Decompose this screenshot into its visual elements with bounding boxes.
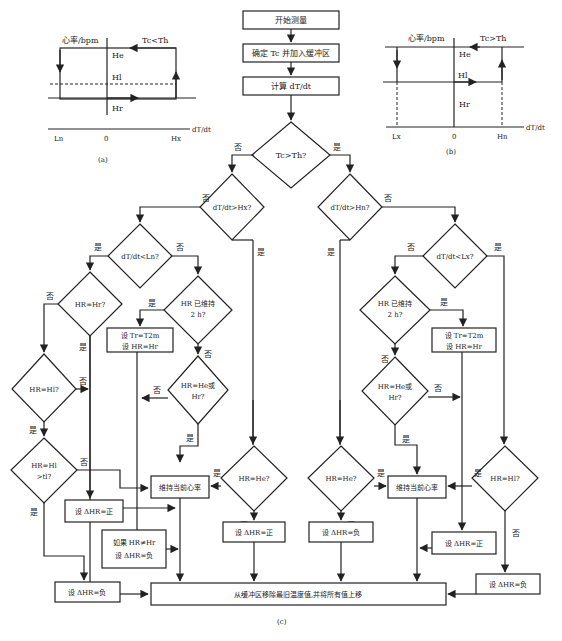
label-yes: 是 [148,299,156,308]
graph-b-ylabel: 心率/bpm [408,33,445,43]
graph-b: 心率/bpm Tc>Th He Hl Hr dT/dt Lx 0 Hn (b) [383,33,545,156]
decision-he-or-hr-line2: Hr? [191,393,204,401]
decision-hr-eq-he-right: HR=He? [325,475,356,483]
step-add-buffer: 确定 Tc 并加入缓冲区 [252,48,330,58]
set-delta-neg-center: 设 ΔHR=负 [322,528,361,537]
decision-rate-lt-lx: dT/dt<Lx? [436,253,473,261]
label-no: 否 [46,292,54,301]
label-yes: 是 [30,508,38,517]
label-yes: 是 [213,469,221,478]
set-tr-right-line1: 设 Tr=T2m [445,331,484,340]
set-delta-pos-center: 设 ΔHR=正 [235,528,274,537]
label-no: 否 [176,243,184,252]
graph-a-level-he: He [112,51,124,60]
label-no: 否 [434,384,442,393]
decision-hr-eq-hr: HR=Hr? [75,301,106,309]
label-no: 否 [381,355,389,364]
decision-hl-time-line2: >tl? [37,473,52,481]
label-no: 否 [234,143,242,152]
keep-hr-left: 维持当前心率 [159,483,201,492]
set-delta-pos-right: 设 ΔHR=正 [445,539,484,548]
label-yes: 是 [377,469,385,478]
graph-a-tick-0: 0 [104,135,108,143]
set-delta-neg-right: 设 ΔHR=负 [489,580,528,589]
start-box: 开始测量 [275,15,307,25]
graph-b-xlabel: dT/dt [526,124,545,132]
flowchart-figure: 心率/bpm Tc<Th He Hl Hr Ln 0 Hx dT/dt (a) … [0,0,562,641]
graph-b-tick-hn: Hn [497,133,508,141]
decision-hl-time-line1: HR=Hl [31,462,57,470]
graph-b-caption: (b) [446,148,456,156]
label-yes: 是 [327,248,335,257]
label-yes: 是 [79,343,87,352]
decision-held-2h-line1: HR 已维持 [181,299,216,308]
decision-rate-gt-hx: dT/dt>Hx? [213,204,252,212]
label-yes: 是 [257,248,265,257]
label-yes: 是 [474,469,482,478]
set-tr-right-line2: 设 HR=Hr [446,342,483,351]
decision-held-2h-line2: 2 h? [191,311,206,319]
graph-b-condition: Tc>Th [480,34,506,43]
graph-b-tick-0: 0 [452,133,456,141]
label-no: 否 [204,350,212,359]
decision-rate-gt-hn: dT/dt>Hn? [330,204,369,212]
label-no: 否 [80,458,88,467]
keep-hr-right: 维持当前心率 [396,483,438,492]
decision-main: Tc>Th? [276,151,307,160]
decision-he-or-hr-right-line2: Hr? [388,394,401,402]
label-no: 否 [202,194,210,203]
decision-hr-eq-he-left: HR=He? [238,475,269,483]
decision-he-or-hr-right-line1: HR=He或 [378,382,413,391]
label-no: 否 [512,529,520,538]
if-not-hr-line2: 设 ΔHR=负 [115,551,154,560]
label-no: 否 [79,377,87,386]
label-yes: 是 [29,426,37,435]
set-tr-line1: 设 Tr=T2m [121,331,160,340]
graph-b-level-hr: Hr [459,100,470,109]
label-yes: 是 [440,298,448,307]
graph-a-caption: (a) [98,156,108,164]
decision-hr-eq-hl-right: HR=Hl? [490,475,520,483]
graph-b-tick-lx: Lx [392,133,401,141]
decision-he-or-hr-line1: HR=He或 [181,381,216,390]
label-yes: 是 [333,143,341,152]
label-no: 否 [407,243,415,252]
final-shift-buffer: 从缓冲区移除最旧温度值,并将所有值上移 [234,590,362,599]
graph-b-level-hl: Hl [458,71,468,80]
graph-a-tick-ln: Ln [54,135,64,143]
decision-hr-eq-hl: HR=Hl? [29,386,59,394]
label-yes: 是 [94,243,102,252]
graph-a: 心率/bpm Tc<Th He Hl Hr Ln 0 Hx dT/dt (a) [48,35,211,164]
if-not-hr-line1: 如果 HR≠Hr [113,538,157,547]
decision-held-2h-right-line1: HR 已维持 [378,299,413,308]
label-no: 否 [384,194,392,203]
set-delta-pos-left: 设 ΔHR=正 [75,507,114,516]
label-yes: 是 [186,434,194,443]
decision-held-2h-right-line2: 2 h? [388,311,403,319]
decision-rate-lt-ln: dT/dt<Ln? [121,253,159,261]
graph-a-condition: Tc<Th [142,36,168,45]
graph-b-level-he: He [459,50,471,59]
flowchart-caption: (c) [277,618,287,626]
label-no: 否 [153,386,161,395]
set-tr-line2: 设 HR=Hr [122,342,159,351]
graph-a-level-hr: Hr [112,104,123,113]
graph-a-level-hl: Hl [112,73,122,82]
graph-a-ylabel: 心率/bpm [62,35,99,45]
step-calc-rate: 计算 dT/dt [271,81,312,91]
set-delta-neg-left: 设 ΔHR=负 [68,588,107,597]
graph-a-tick-hx: Hx [171,135,181,143]
graph-a-xlabel: dT/dt [192,126,211,134]
label-yes: 是 [494,243,502,252]
label-yes: 是 [402,435,410,444]
